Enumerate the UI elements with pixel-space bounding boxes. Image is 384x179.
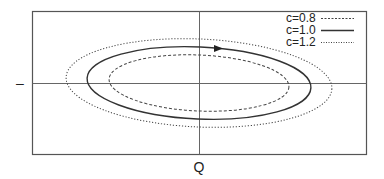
x-axis-label: Q: [194, 159, 205, 175]
legend-item-c-1-2: c=1.2: [286, 35, 354, 49]
direction-arrow-icon: [214, 45, 223, 52]
y-axis-label: –: [16, 75, 24, 91]
phase-portrait-chart: c=0.8 c=1.0 c=1.2 – Q: [0, 0, 384, 179]
legend-label: c=1.2: [286, 35, 316, 49]
legend: c=0.8 c=1.0 c=1.2: [286, 11, 354, 49]
